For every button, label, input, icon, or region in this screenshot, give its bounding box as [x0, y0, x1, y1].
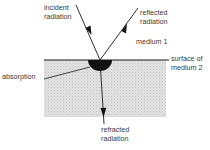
- absorption-label: absorption: [2, 73, 36, 82]
- reflected-ray: [100, 8, 138, 60]
- reflected-label-line2: radiation: [140, 18, 168, 27]
- reflected-arrow-icon: [122, 24, 128, 34]
- refracted-radiation-label: refracted radiation: [101, 126, 129, 143]
- medium-1-label: medium 1: [136, 38, 168, 47]
- surface-of-medium-2-label: surface of medium 2: [171, 55, 203, 72]
- surface-label-line2: medium 2: [171, 64, 203, 73]
- incident-radiation-label: incident radiation: [44, 4, 72, 21]
- incident-ray: [76, 5, 100, 60]
- refracted-label-line2: radiation: [101, 135, 129, 144]
- incident-label-line2: radiation: [44, 13, 72, 22]
- reflected-radiation-label: reflected radiation: [140, 9, 168, 26]
